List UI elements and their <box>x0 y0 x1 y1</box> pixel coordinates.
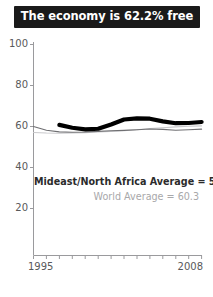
plot-area: 100 80 60 40 20 1995 2008 Mideast/North … <box>0 0 213 297</box>
chart-svg <box>0 0 213 297</box>
data-series-group <box>34 118 202 133</box>
x-axis-ticks <box>34 256 202 260</box>
economic-freedom-chart: The economy is 62.2% free <box>0 0 213 297</box>
y-tick-label-100: 100 <box>2 39 28 49</box>
x-tick-label-start: 1995 <box>28 262 53 272</box>
world-average-label: World Average = 60.3 <box>34 191 203 203</box>
series-country-score <box>59 118 201 129</box>
y-tick-label-80: 80 <box>2 80 28 90</box>
region-average-annotation: Mideast/North Africa Average = 58.7 <box>34 176 203 188</box>
y-tick-label-20: 20 <box>2 203 28 213</box>
y-tick-label-60: 60 <box>2 121 28 131</box>
y-tick-label-40: 40 <box>2 162 28 172</box>
world-average-annotation: World Average = 60.3 <box>34 191 203 203</box>
x-tick-label-end: 2008 <box>178 262 203 272</box>
region-average-label: Mideast/North Africa Average = 58.7 <box>34 176 203 188</box>
